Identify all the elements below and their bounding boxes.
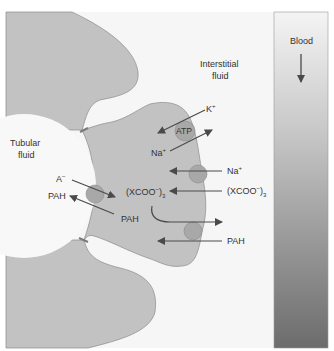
interstitial-fluid-label: Interstitial (200, 59, 239, 69)
oat-exchanger (184, 222, 202, 240)
atp-label: ATP (176, 126, 192, 136)
tubular-fluid-label-2: fluid (18, 150, 35, 160)
apical-exchanger (86, 185, 104, 203)
blood-label: Blood (290, 36, 313, 46)
pah-cell-label: PAH (121, 214, 139, 224)
pah-lumen-label: PAH (48, 191, 66, 201)
pah-interstitial-label: PAH (227, 236, 245, 246)
tubular-fluid-label: Tubular (10, 138, 40, 148)
pah-secretion-diagram: Tubular fluid Interstitial fluid Blood A… (0, 0, 334, 351)
na-cotransporter (189, 165, 207, 183)
interstitial-fluid-label-2: fluid (212, 71, 229, 81)
